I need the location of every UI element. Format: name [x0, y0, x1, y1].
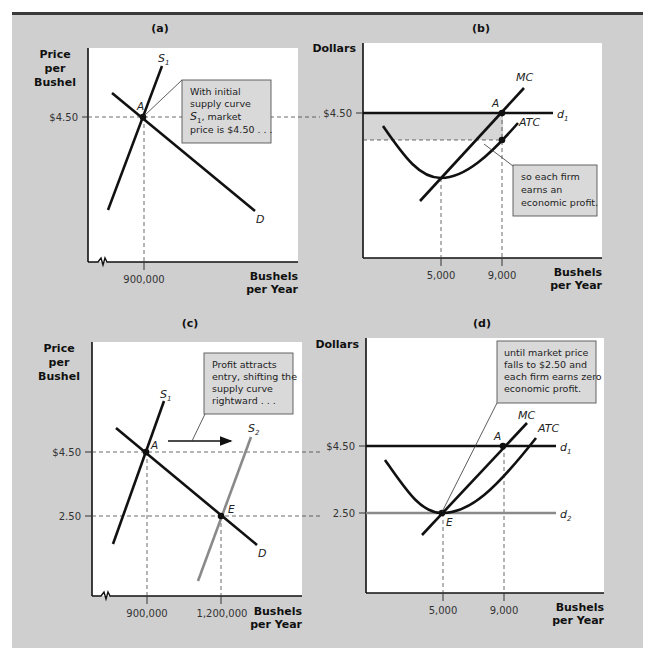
panel-b-xtick-label-2: 9,000 — [488, 270, 517, 281]
panel-b-xlabel-line2: per Year — [550, 279, 602, 292]
panel-b-plot-area — [363, 43, 602, 258]
panel-c-ytick-label-1: $4.50 — [52, 447, 81, 458]
panel-c-callout-line2: entry, shifting the — [212, 371, 297, 382]
panel-d-ylabel: Dollars — [315, 338, 359, 351]
panel-a-callout-line1: With initial — [190, 86, 241, 97]
panel-a-title: (a) — [151, 22, 168, 35]
panel-a-ylabel-line2: per — [45, 62, 66, 75]
panel-d-point-e-label: E — [446, 516, 453, 528]
panel-a-xtick-label: 900,000 — [123, 274, 164, 285]
panel-c-title: (c) — [182, 317, 199, 330]
panel-d-callout-line2: falls to $2.50 and — [504, 359, 587, 370]
panel-d-ytick-label-2: 2.50 — [333, 508, 355, 519]
panel-c-xlabel-line1: Bushels — [254, 605, 303, 618]
panel-c-point-a-label: A — [150, 439, 158, 451]
panel-b-point-a-label: A — [491, 97, 499, 109]
panel-a-callout-line4: price is $4.50 . . . — [190, 124, 273, 135]
panel-b-point-atc — [499, 137, 506, 144]
panel-d-ytick-label-1: $4.50 — [326, 441, 355, 452]
panel-b-callout-line1: so each firm — [521, 171, 580, 182]
panel-c-callout-line3: supply curve — [212, 383, 273, 394]
panel-c-point-e — [218, 513, 225, 520]
panel-d-atc-label: ATC — [537, 422, 559, 435]
panel-d-point-e — [439, 510, 446, 517]
panel-d-xlabel-line2: per Year — [552, 614, 604, 627]
panel-d: (d) Dollars $4.50 2.50 5,000 9,000 Bushe… — [315, 317, 604, 627]
panel-a-xlabel-line2: per Year — [246, 283, 298, 296]
panel-a-point-a-label: A — [136, 100, 144, 112]
panel-c-point-e-label: E — [228, 503, 235, 515]
panel-a-ylabel-line3: Bushel — [34, 76, 76, 89]
panel-a-ylabel-line1: Price — [39, 48, 70, 61]
panel-c-xtick-label-1: 900,000 — [126, 608, 167, 619]
panel-b: (b) Dollars $4.50 5,000 9,000 Bushels pe… — [312, 22, 602, 292]
panel-c-ytick-label-2: 2.50 — [59, 511, 81, 522]
panel-b-ylabel: Dollars — [312, 42, 356, 55]
panel-d-point-a-label: A — [493, 430, 501, 442]
panel-c-ylabel-line2: per — [49, 356, 70, 369]
panel-d-callout-line3: each firm earns zero — [504, 371, 602, 382]
panel-d-point-a — [500, 443, 507, 450]
panel-b-callout-line3: economic profit. — [521, 197, 598, 208]
panel-d-title: (d) — [473, 317, 491, 330]
panel-a-xlabel-line1: Bushels — [250, 270, 299, 283]
panel-c-ylabel-line3: Bushel — [38, 370, 80, 383]
panel-b-point-a — [499, 110, 506, 117]
panel-c-point-a — [143, 449, 150, 456]
panel-a: (a) Price per Bushel $4.50 900,000 Bushe… — [34, 22, 320, 296]
panel-d-callout-line1: until market price — [504, 347, 589, 358]
panel-a-ytick-label: $4.50 — [49, 112, 78, 123]
panel-c-callout-line1: Profit attracts — [212, 359, 277, 370]
panel-b-xtick-label-1: 5,000 — [427, 270, 456, 281]
panel-d-xlabel-line1: Bushels — [556, 601, 605, 614]
panel-c: (c) Price per Bushel $4.50 2.50 900,000 … — [38, 317, 322, 631]
panel-c-xtick-label-2: 1,200,000 — [197, 608, 248, 619]
panel-b-title: (b) — [472, 22, 490, 35]
panel-d-xtick-label-1: 5,000 — [429, 605, 458, 616]
panel-c-ylabel-line1: Price — [43, 342, 74, 355]
panel-a-callout-line2: supply curve — [190, 98, 251, 109]
panel-b-ytick-label: $4.50 — [323, 108, 352, 119]
panel-b-xlabel-line1: Bushels — [554, 266, 603, 279]
panel-c-d-label: D — [258, 547, 266, 560]
panel-b-mc-label: MC — [516, 71, 533, 84]
panel-b-atc-label: ATC — [518, 116, 540, 129]
figure-canvas: (a) Price per Bushel $4.50 900,000 Bushe… — [0, 0, 654, 658]
panel-d-xtick-label-2: 9,000 — [490, 605, 519, 616]
panel-d-callout-line4: economic profit. — [504, 383, 581, 394]
panel-c-xlabel-line2: per Year — [250, 618, 302, 631]
panel-d-mc-label: MC — [518, 409, 535, 422]
panel-c-callout-line4: rightward . . . — [212, 395, 276, 406]
panel-a-d-label: D — [256, 213, 264, 226]
panel-b-callout-line2: earns an — [521, 184, 562, 195]
